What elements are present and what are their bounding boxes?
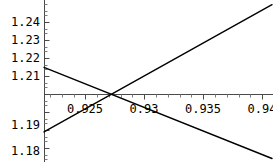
y-tick-label-1-19: 1.19	[0, 119, 40, 131]
y-tick-label-1-18: 1.18	[0, 145, 40, 157]
y-tick-label-1-21: 1.21	[0, 70, 40, 82]
plot-canvas	[0, 0, 273, 162]
plot-figure: 1.24 1.23 1.22 1.21 1.19 1.18 0.925 0.93…	[0, 0, 273, 162]
x-tick-label-0-935: 0.935	[174, 103, 232, 115]
x-tick-label-0-94: 0.94	[238, 103, 273, 115]
x-tick-label-0-925: 0.925	[56, 103, 114, 115]
y-tick-label-1-24: 1.24	[0, 16, 40, 28]
y-tick-label-1-22: 1.22	[0, 52, 40, 64]
y-tick-label-1-23: 1.23	[0, 34, 40, 46]
x-tick-label-0-93: 0.93	[120, 103, 168, 115]
